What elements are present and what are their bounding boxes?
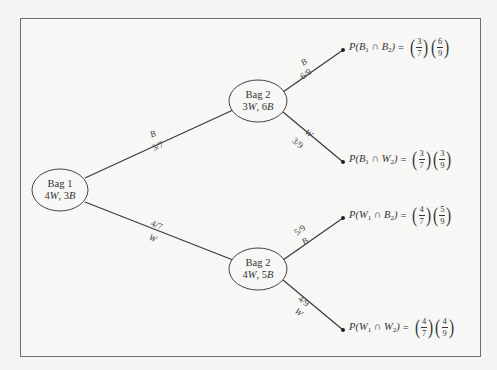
leaf-result-2: P(B1 ∩ W2) = (37) (39) xyxy=(349,148,453,170)
fraction-product: (37) (39) xyxy=(411,148,452,170)
node-label: Bag 2 xyxy=(229,89,287,101)
edge-upper-leaf1 xyxy=(283,50,343,92)
fraction-product: (47) (49) xyxy=(414,316,455,338)
equals-sign: = xyxy=(400,154,406,165)
node-bag2-lower-text: Bag 2 4W, 5B xyxy=(229,257,287,281)
node-bag1-text: Bag 1 4W, 3B xyxy=(32,178,88,202)
equals-sign: = xyxy=(400,210,406,221)
leaf-event: P(W1 ∩ B2) xyxy=(349,209,397,222)
leaf-result-3: P(W1 ∩ B2) = (47) (59) xyxy=(349,204,453,226)
leaf-event: P(B1 ∩ W2) xyxy=(349,153,397,166)
node-bag2-upper-text: Bag 2 3W, 6B xyxy=(229,89,287,113)
fraction-product: (47) (59) xyxy=(411,204,452,226)
leaf-dot-3 xyxy=(341,216,345,220)
edge-lower-leaf4 xyxy=(283,280,343,330)
leaf-event: P(W1 ∩ W2) xyxy=(349,321,400,334)
leaf-dot-2 xyxy=(341,160,345,164)
equals-sign: = xyxy=(403,322,409,333)
leaf-result-1: P(B1 ∩ B2) = (37) (69) xyxy=(349,36,450,58)
leaf-dot-4 xyxy=(341,328,345,332)
equals-sign: = xyxy=(398,42,404,53)
fraction-product: (37) (69) xyxy=(409,36,450,58)
node-label: Bag 1 xyxy=(32,178,88,190)
edge-upper-leaf2 xyxy=(283,112,343,162)
node-label: Bag 2 xyxy=(229,257,287,269)
leaf-result-4: P(W1 ∩ W2) = (47) (49) xyxy=(349,316,455,338)
leaf-dot-1 xyxy=(341,48,345,52)
leaf-event: P(B1 ∩ B2) xyxy=(349,41,395,54)
edge-lower-leaf3 xyxy=(283,218,343,260)
node-contents: 3W, 6B xyxy=(229,101,287,113)
node-contents: 4W, 3B xyxy=(32,190,88,202)
node-contents: 4W, 5B xyxy=(229,269,287,281)
